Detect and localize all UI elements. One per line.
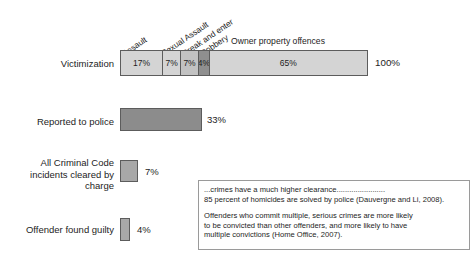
bar-segment-value-break-and-enter: 7% [183,58,195,68]
bar-cleared-by-charge [120,160,138,182]
bar-segment-assault: 17% [121,51,163,75]
bar-segment-owner-property-offences: 65% [210,51,367,75]
bar-value-reported-to-police: 33% [207,114,226,125]
stacked-bar-victimization: 17% 7% 7% 4% 65% [120,50,368,76]
note-line-3: Offenders who commit multiple, serious c… [204,211,413,220]
note-line-2: 85 percent of homicides are solved by po… [204,195,444,204]
bar-segment-sexual-assault: 7% [163,51,181,75]
note-paragraph-2: Offenders who commit multiple, serious c… [204,211,463,240]
category-label-owner-property-offences: Owner property offences [231,36,325,46]
bar-total-value-victimization: 100% [375,57,400,68]
bar-segment-robbery: 4% [199,51,210,75]
note-line-1: ...crimes have a much higher clearance..… [204,185,385,194]
bar-value-offender-found-guilty: 4% [137,224,151,235]
bar-segment-value-owner-property-offences: 65% [280,58,297,68]
row-label-victimization: Victimization [10,58,114,70]
note-line-4: to be convicted than other offenders, an… [204,221,407,230]
row-label-reported-to-police: Reported to police [10,116,114,128]
bar-offender-found-guilty [120,218,130,241]
row-label-offender-found-guilty: Offender found guilty [8,224,114,236]
bar-segment-value-sexual-assault: 7% [165,58,177,68]
victimization-funnel-chart: Assault Sexual Assault Break and enter R… [0,0,473,260]
bar-segment-break-and-enter: 7% [181,51,199,75]
bar-value-cleared-by-charge: 7% [145,166,159,177]
bar-segment-value-robbery: 4% [199,58,210,68]
row-label-cleared-by-charge: All Criminal Code incidents cleared by c… [6,157,114,192]
note-line-5: multiple convictions (Home Office, 2007)… [204,230,342,239]
bar-segment-value-assault: 17% [133,58,150,68]
bar-reported-to-police [120,108,202,131]
note-paragraph-1: ...crimes have a much higher clearance..… [204,185,463,204]
annotation-note-box: ...crimes have a much higher clearance..… [198,180,470,250]
